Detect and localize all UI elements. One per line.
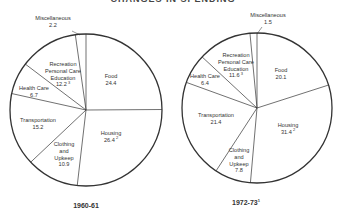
chart-captions: 1960-611972-731 [73, 198, 261, 209]
pie-charts: Food24.4Housing26.4 2ClothingandUpkeep10… [0, 0, 346, 218]
slice-label-miscellaneous: Miscellaneous1.5 [250, 12, 286, 25]
pie-chart-1972-73: Food20.1Housing31.4 2ClothingandUpkeep7.… [182, 12, 332, 183]
slice-label-food: Food24.4 [105, 73, 118, 86]
caption-1960-61: 1960-61 [73, 202, 99, 209]
caption-1972-73: 1972-731 [232, 198, 261, 206]
pie-chart-1960-61: Food24.4Housing26.4 2ClothingandUpkeep10… [10, 15, 162, 186]
slice-label-miscellaneous: Miscellaneous2.2 [35, 15, 71, 28]
slice-label-food: Food20.1 [275, 67, 288, 80]
